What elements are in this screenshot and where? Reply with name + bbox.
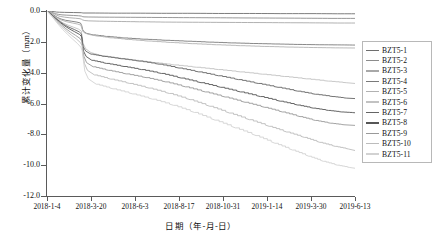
- legend-label: BZT5-3: [382, 66, 407, 75]
- legend-label: BZT5-5: [382, 87, 407, 96]
- y-tick-mark: [41, 11, 46, 12]
- plot-area: [47, 11, 355, 196]
- series-line-bzt5-2: [47, 11, 355, 18]
- legend-swatch-icon: [366, 60, 379, 61]
- x-tick-label: 2019-6-13: [325, 202, 385, 211]
- x-tick-mark: [91, 197, 92, 201]
- y-tick-mark: [41, 73, 46, 74]
- y-tick-label: -12.0: [0, 191, 40, 200]
- legend-swatch-icon: [366, 112, 379, 113]
- legend-label: BZT5-2: [382, 56, 407, 65]
- legend-swatch-icon: [366, 122, 379, 123]
- legend-swatch-icon: [366, 153, 379, 154]
- series-line-bzt5-7: [47, 11, 355, 99]
- legend-item-bzt5-10[interactable]: BZT5-10: [366, 139, 428, 149]
- x-tick-mark: [135, 197, 136, 201]
- legend-swatch-icon: [366, 101, 379, 102]
- legend-swatch-icon: [366, 133, 379, 134]
- legend-label: BZT5-4: [382, 77, 407, 86]
- series-line-bzt5-8: [47, 11, 355, 113]
- legend: BZT5-1BZT5-2BZT5-3BZT5-4BZT5-5BZT5-6BZT5…: [362, 41, 432, 163]
- legend-swatch-icon: [366, 70, 379, 71]
- legend-item-bzt5-8[interactable]: BZT5-8: [366, 118, 428, 128]
- x-tick-mark: [47, 197, 48, 201]
- y-tick-mark: [41, 165, 46, 166]
- x-tick-mark: [179, 197, 180, 201]
- legend-swatch-icon: [366, 143, 379, 144]
- y-tick-label: 0.0: [0, 6, 40, 15]
- y-tick-label: -10.0: [0, 160, 40, 169]
- legend-item-bzt5-2[interactable]: BZT5-2: [366, 55, 428, 65]
- legend-label: BZT5-7: [382, 108, 407, 117]
- legend-label: BZT5-9: [382, 129, 407, 138]
- legend-label: BZT5-1: [382, 46, 407, 55]
- x-tick-mark: [355, 197, 356, 201]
- x-axis-title: 日期（年-月-日）: [47, 219, 355, 231]
- series-line-bzt5-10: [47, 11, 355, 151]
- legend-swatch-icon: [366, 81, 379, 82]
- legend-swatch-icon: [366, 50, 379, 51]
- y-tick-label: -4.0: [0, 68, 40, 77]
- legend-item-bzt5-11[interactable]: BZT5-11: [366, 149, 428, 159]
- legend-label: BZT5-8: [382, 118, 407, 127]
- legend-item-bzt5-9[interactable]: BZT5-9: [366, 128, 428, 138]
- chart-figure: 累计变化量（mm） 0.0-2.0-4.0-6.0-8.0-10.0-12.0 …: [0, 0, 438, 239]
- y-tick-mark: [41, 134, 46, 135]
- y-tick-mark: [41, 42, 46, 43]
- y-tick-label: -8.0: [0, 129, 40, 138]
- legend-label: BZT5-11: [382, 150, 411, 159]
- legend-item-bzt5-7[interactable]: BZT5-7: [366, 107, 428, 117]
- x-axis-line: [46, 196, 355, 197]
- legend-label: BZT5-6: [382, 98, 407, 107]
- series-lines: [47, 11, 355, 196]
- x-tick-mark: [223, 197, 224, 201]
- series-line-bzt5-4: [47, 11, 355, 45]
- y-tick-label: -6.0: [0, 99, 40, 108]
- y-tick-label: -2.0: [0, 37, 40, 46]
- legend-swatch-icon: [366, 91, 379, 92]
- y-tick-mark: [41, 104, 46, 105]
- legend-label: BZT5-10: [382, 139, 411, 148]
- series-line-bzt5-5: [47, 11, 355, 48]
- legend-item-bzt5-4[interactable]: BZT5-4: [366, 76, 428, 86]
- series-line-bzt5-1: [47, 11, 355, 14]
- legend-item-bzt5-3[interactable]: BZT5-3: [366, 66, 428, 76]
- legend-item-bzt5-1[interactable]: BZT5-1: [366, 45, 428, 55]
- legend-item-bzt5-5[interactable]: BZT5-5: [366, 87, 428, 97]
- x-tick-mark: [267, 197, 268, 201]
- series-line-bzt5-9: [47, 11, 355, 125]
- x-tick-mark: [311, 197, 312, 201]
- y-tick-mark: [41, 196, 46, 197]
- legend-item-bzt5-6[interactable]: BZT5-6: [366, 97, 428, 107]
